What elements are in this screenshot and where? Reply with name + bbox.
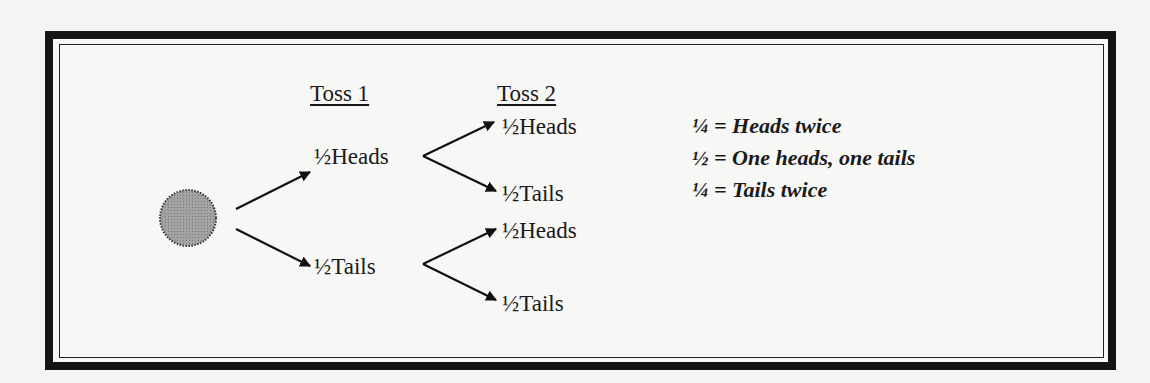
outcome-label: Tails xyxy=(519,291,563,316)
fraction: ½ xyxy=(502,114,519,139)
outcome-label: Heads xyxy=(519,114,576,139)
fraction: ½ xyxy=(314,254,331,279)
outcome-label: Heads xyxy=(331,144,388,169)
toss1-header: Toss 1 xyxy=(310,82,369,105)
arrow-h-t xyxy=(423,156,496,191)
outcome-label: Tails xyxy=(519,181,563,206)
summary-tails-twice: ¼ = Tails twice xyxy=(692,179,827,201)
toss2-tails-after-tails: ½Tails xyxy=(502,292,564,315)
outcome-label: Heads xyxy=(519,218,576,243)
toss2-header: Toss 2 xyxy=(497,82,556,105)
summary-text: = Heads twice xyxy=(714,113,841,138)
summary-heads-twice: ¼ = Heads twice xyxy=(692,115,841,137)
fraction: ½ xyxy=(502,291,519,316)
summary-one-each: ½ = One heads, one tails xyxy=(692,147,915,169)
tree-diagram xyxy=(0,0,1150,383)
arrow-h-h xyxy=(423,122,494,156)
summary-text: = One heads, one tails xyxy=(714,145,915,170)
fraction: ½ xyxy=(502,181,519,206)
toss2-heads-after-heads: ½Heads xyxy=(502,115,577,138)
fraction: ½ xyxy=(502,218,519,243)
summary-text: = Tails twice xyxy=(714,177,827,202)
toss2-heads-after-tails: ½Heads xyxy=(502,219,577,242)
arrow-t-t xyxy=(423,264,496,300)
toss1-tails: ½Tails xyxy=(314,255,376,278)
arrow-t-h xyxy=(423,229,496,264)
toss2-tails-after-heads: ½Tails xyxy=(502,182,564,205)
arrow-toss1-heads xyxy=(236,172,310,209)
fraction: ½ xyxy=(314,144,331,169)
toss1-heads: ½Heads xyxy=(314,145,389,168)
fraction: ½ xyxy=(692,145,709,170)
arrow-toss1-tails xyxy=(236,229,310,266)
outcome-label: Tails xyxy=(331,254,375,279)
fraction: ¼ xyxy=(692,113,709,138)
coin-icon xyxy=(160,190,216,246)
fraction: ¼ xyxy=(692,177,709,202)
